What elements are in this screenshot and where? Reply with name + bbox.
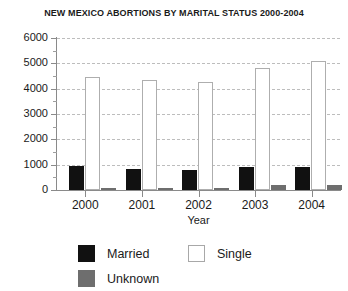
bar-unknown-2002 [214, 188, 229, 190]
x-axis-label-2003: 2003 [225, 198, 285, 212]
y-axis-label: 6000 [2, 32, 48, 43]
bar-unknown-2004 [327, 185, 342, 190]
bar-unknown-2001 [158, 188, 173, 190]
y-axis-label: 0 [2, 184, 48, 195]
x-axis-tick [255, 190, 256, 197]
y-axis-label: 3000 [2, 108, 48, 119]
bar-single-2003 [255, 68, 270, 190]
y-axis-label: 1000 [2, 159, 48, 170]
abortions-by-marital-status-chart: NEW MEXICO ABORTIONS BY MARITAL STATUS 2… [0, 0, 348, 291]
legend-label-single: Single [217, 247, 252, 261]
bar-married-2003 [239, 167, 254, 190]
x-axis-tick [142, 190, 143, 197]
y-axis-label: 5000 [2, 57, 48, 68]
chart-title: NEW MEXICO ABORTIONS BY MARITAL STATUS 2… [0, 8, 348, 18]
legend-item-married[interactable]: Married [78, 245, 149, 262]
x-axis-label-2004: 2004 [282, 198, 342, 212]
bar-single-2002 [198, 82, 213, 190]
x-axis-label-2000: 2000 [55, 198, 115, 212]
x-axis-tick [312, 190, 313, 197]
bar-married-2001 [126, 169, 141, 190]
bar-unknown-2000 [101, 188, 116, 190]
legend-label-unknown: Unknown [107, 272, 159, 286]
x-axis-label-2001: 2001 [112, 198, 172, 212]
legend-swatch-single-icon [188, 245, 205, 262]
legend-swatch-unknown-icon [78, 270, 95, 287]
legend-item-unknown[interactable]: Unknown [78, 270, 159, 287]
bar-single-2001 [142, 80, 157, 190]
legend-swatch-married-icon [78, 245, 95, 262]
x-axis-tick [85, 190, 86, 197]
bar-married-2000 [69, 166, 84, 190]
y-axis-label: 2000 [2, 133, 48, 144]
x-axis-title: Year [57, 214, 340, 226]
bar-unknown-2003 [271, 185, 286, 190]
x-axis-tick [199, 190, 200, 197]
legend-label-married: Married [107, 247, 149, 261]
y-axis-label: 4000 [2, 83, 48, 94]
x-axis-label-2002: 2002 [169, 198, 229, 212]
bar-single-2004 [311, 61, 326, 190]
bar-single-2000 [85, 77, 100, 190]
plot-bars [57, 38, 340, 190]
y-axis-tick [51, 190, 57, 191]
chart-legend: MarriedSingleUnknown [0, 243, 348, 291]
bar-married-2004 [295, 167, 310, 190]
bar-married-2002 [182, 170, 197, 190]
legend-item-single[interactable]: Single [188, 245, 252, 262]
